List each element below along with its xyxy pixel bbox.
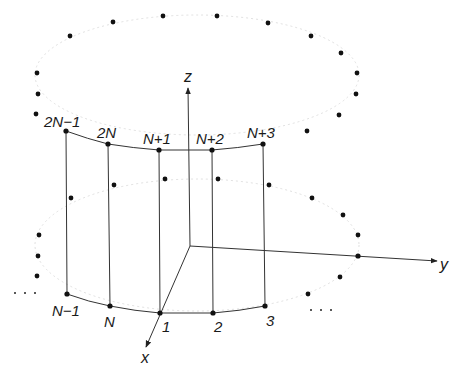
ring-dot (34, 112, 39, 117)
label-N: N (104, 313, 115, 330)
ellipsis-dot (34, 292, 36, 294)
ellipsis-dot (320, 309, 322, 311)
ring-dot (341, 213, 346, 218)
ring-dot (355, 71, 360, 76)
ring-dot (161, 14, 166, 19)
edge-2N-to-N (108, 144, 110, 306)
edge-N+1-to-1 (159, 150, 160, 313)
edge-N+2-to-2 (212, 150, 213, 313)
y-axis-label: y (439, 256, 449, 273)
ring-dot (37, 233, 42, 238)
z-axis (188, 88, 190, 246)
ring-dot (35, 71, 40, 76)
ring-dot (69, 196, 74, 201)
edge-2N-1-to-N-1 (66, 131, 67, 294)
label-2N: 2N (96, 124, 116, 141)
node-N+3 (260, 141, 265, 146)
ring-dot (337, 113, 342, 118)
ring-dot (216, 177, 221, 182)
ring-dot (163, 177, 168, 182)
cylinder-diagram: 2N−1 2N N+1 N+2 N+3 N−1 N 1 2 3 z y x (0, 0, 460, 379)
node-1 (157, 310, 162, 315)
ring-dot (306, 292, 311, 297)
ring-dot (266, 21, 271, 26)
node-on-y-axis (355, 253, 360, 258)
ring-dot (267, 183, 272, 188)
node-2N (105, 141, 110, 146)
node-N (107, 303, 112, 308)
node-N+1 (156, 147, 161, 152)
ring-dot (68, 34, 73, 39)
ellipsis-dot (330, 309, 332, 311)
label-N-1: N−1 (52, 302, 80, 319)
ring-dot (309, 34, 314, 39)
left-ellipsis (14, 292, 36, 294)
ellipsis-dot (310, 309, 312, 311)
ring-dot (338, 275, 343, 280)
label-N+1: N+1 (143, 130, 171, 147)
axes (146, 88, 437, 347)
ring-dot (215, 14, 220, 19)
ring-dot (112, 183, 117, 188)
x-axis-label: x (140, 349, 150, 366)
edge-N+3-to-3 (263, 144, 265, 306)
label-N+2: N+2 (196, 130, 225, 147)
ring-dot (310, 196, 315, 201)
ring-dot (111, 20, 116, 25)
ring-dot (339, 51, 344, 56)
ring-dot (36, 254, 41, 259)
vertical-edges (66, 131, 265, 313)
z-axis-label: z (183, 68, 192, 85)
ring-dot (354, 92, 359, 97)
ellipsis-dot (14, 292, 16, 294)
label-2: 2 (213, 318, 223, 335)
bottom-ring-dots (35, 177, 361, 297)
faint-guides (35, 15, 359, 311)
bottom-arc (67, 294, 265, 313)
label-N+3: N+3 (247, 124, 276, 141)
right-ellipsis (310, 309, 332, 311)
ring-dot (305, 129, 310, 134)
node-3 (262, 303, 267, 308)
node-2 (210, 310, 215, 315)
label-3: 3 (266, 312, 275, 329)
top-ring-dots (34, 14, 360, 134)
ring-dot (356, 233, 361, 238)
ring-dot (36, 92, 41, 97)
ring-dot (35, 274, 40, 279)
ellipsis-dot (24, 292, 26, 294)
y-axis (190, 246, 437, 261)
node-N+2 (209, 147, 214, 152)
label-2N-1: 2N−1 (43, 113, 80, 130)
node-N-1 (64, 291, 69, 296)
label-1: 1 (162, 318, 170, 335)
top-ring-guide (35, 15, 359, 135)
